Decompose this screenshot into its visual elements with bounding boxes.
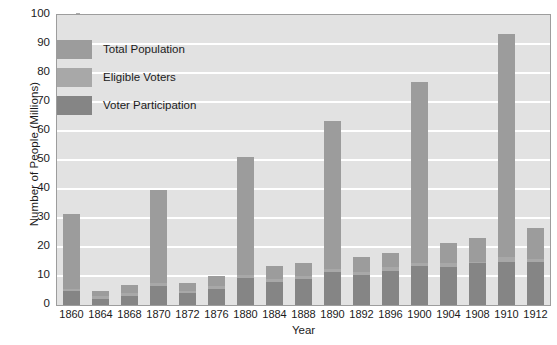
bar-group[interactable] xyxy=(237,157,254,305)
bar-segment-total-population[interactable] xyxy=(121,285,138,294)
bar-segment-voter-participation[interactable] xyxy=(382,271,399,305)
bar-group[interactable] xyxy=(63,214,80,305)
bar-group[interactable] xyxy=(150,190,167,305)
x-tick-label: 1888 xyxy=(291,309,315,320)
x-axis-ticks: 1860186418681870187218761880188418881890… xyxy=(56,306,551,324)
bar-group[interactable] xyxy=(266,266,283,305)
bar-group[interactable] xyxy=(498,34,515,305)
legend-item[interactable]: Total Population xyxy=(57,40,196,59)
bar-segment-total-population[interactable] xyxy=(295,263,312,276)
bar-segment-voter-participation[interactable] xyxy=(208,289,225,305)
bar-segment-total-population[interactable] xyxy=(179,283,196,290)
legend-item[interactable]: Voter Participation xyxy=(57,96,196,115)
y-tick-label: 20 xyxy=(24,240,50,252)
bar-segment-total-population[interactable] xyxy=(440,243,457,263)
bar-segment-total-population[interactable] xyxy=(208,276,225,286)
bar-group[interactable] xyxy=(208,276,225,305)
bar-segment-voter-participation[interactable] xyxy=(266,282,283,305)
x-tick-label: 1892 xyxy=(349,309,373,320)
bar-segment-voter-participation[interactable] xyxy=(353,275,370,305)
x-tick-label: 1870 xyxy=(146,309,170,320)
bar-segment-total-population[interactable] xyxy=(324,121,341,269)
legend-swatch-icon xyxy=(57,40,92,59)
y-tick-label: 10 xyxy=(24,269,50,281)
y-tick-label: 100 xyxy=(24,8,50,20)
bar-group[interactable] xyxy=(382,253,399,305)
x-tick-label: 1880 xyxy=(233,309,257,320)
x-tick-label: 1908 xyxy=(465,309,489,320)
x-axis-title: Year xyxy=(56,324,551,336)
bar-segment-voter-participation[interactable] xyxy=(295,279,312,305)
bar-segment-voter-participation[interactable] xyxy=(237,278,254,305)
x-tick-label: 1900 xyxy=(407,309,431,320)
bar-segment-voter-participation[interactable] xyxy=(440,267,457,305)
bar-segment-voter-participation[interactable] xyxy=(150,286,167,305)
legend-label: Voter Participation xyxy=(103,100,196,112)
bar-group[interactable] xyxy=(411,82,428,305)
bar-segment-voter-participation[interactable] xyxy=(469,263,486,305)
bar-segment-voter-participation[interactable] xyxy=(411,266,428,305)
y-tick-label: 50 xyxy=(24,153,50,165)
bar-segment-total-population[interactable] xyxy=(382,253,399,268)
bar-group[interactable] xyxy=(121,285,138,305)
legend-swatch-icon xyxy=(57,68,92,87)
bar-segment-total-population[interactable] xyxy=(527,228,544,258)
bar-group[interactable] xyxy=(324,121,341,305)
y-tick-label: 70 xyxy=(24,95,50,107)
bar-segment-total-population[interactable] xyxy=(498,34,515,257)
x-tick-label: 1884 xyxy=(262,309,286,320)
x-tick-label: 1904 xyxy=(436,309,460,320)
x-tick-label: 1910 xyxy=(494,309,518,320)
legend-swatch-icon xyxy=(57,96,92,115)
x-tick-label: 1860 xyxy=(59,309,83,320)
bar-group[interactable] xyxy=(469,238,486,305)
bar-segment-total-population[interactable] xyxy=(63,214,80,289)
bar-segment-voter-participation[interactable] xyxy=(92,299,109,305)
bar-group[interactable] xyxy=(527,228,544,305)
bar-segment-total-population[interactable] xyxy=(150,190,167,284)
y-tick-label: 30 xyxy=(24,211,50,223)
bar-segment-total-population[interactable] xyxy=(266,266,283,279)
bar-segment-voter-participation[interactable] xyxy=(498,262,515,306)
legend-label: Total Population xyxy=(103,44,185,56)
x-tick-label: 1912 xyxy=(523,309,547,320)
x-tick-label: 1876 xyxy=(204,309,228,320)
bar-group[interactable] xyxy=(353,257,370,305)
y-tick-label: 90 xyxy=(24,37,50,49)
bar-segment-voter-participation[interactable] xyxy=(527,262,544,306)
bar-segment-voter-participation[interactable] xyxy=(324,272,341,305)
bar-group[interactable] xyxy=(179,283,196,305)
x-tick-label: 1868 xyxy=(117,309,141,320)
bar-segment-total-population[interactable] xyxy=(353,257,370,272)
legend-item[interactable]: Eligible Voters xyxy=(57,68,196,87)
bar-group[interactable] xyxy=(440,243,457,305)
bar-segment-total-population[interactable] xyxy=(469,238,486,261)
bar-segment-voter-participation[interactable] xyxy=(179,293,196,305)
bar-segment-voter-participation[interactable] xyxy=(63,291,80,305)
bar-group[interactable] xyxy=(295,263,312,305)
bar-segment-voter-participation[interactable] xyxy=(121,296,138,305)
y-tick-label: 80 xyxy=(24,66,50,78)
x-tick-label: 1896 xyxy=(378,309,402,320)
x-tick-label: 1864 xyxy=(88,309,112,320)
bar-segment-total-population[interactable] xyxy=(237,157,254,274)
bar-chart: Number of People (Millions) 010203040506… xyxy=(0,0,557,345)
legend-label: Eligible Voters xyxy=(103,72,176,84)
legend: Total PopulationEligible VotersVoter Par… xyxy=(57,40,196,115)
y-tick-label: 0 xyxy=(24,298,50,310)
bar-group[interactable] xyxy=(92,291,109,306)
bar-segment-total-population[interactable] xyxy=(411,82,428,263)
y-axis-ticks: 0102030405060708090100 xyxy=(24,0,50,345)
y-tick-label: 40 xyxy=(24,182,50,194)
x-tick-label: 1890 xyxy=(320,309,344,320)
y-tick-label: 60 xyxy=(24,124,50,136)
x-tick-label: 1872 xyxy=(175,309,199,320)
